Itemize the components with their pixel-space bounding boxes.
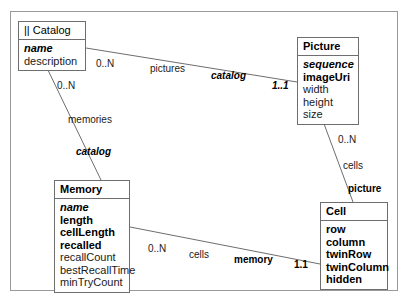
- attribute-picture-height: height: [303, 96, 353, 109]
- label-catalog-picture-source-role: pictures: [150, 63, 185, 74]
- attribute-catalog-description: description: [24, 55, 80, 68]
- attribute-memory-bestRecallTime: bestRecallTime: [60, 264, 124, 277]
- attribute-picture-width: width: [303, 83, 353, 96]
- label-memory-cell-source-cardinality: 0..N: [148, 243, 166, 254]
- diagram-canvas: || Catalog name description Picture sequ…: [0, 0, 408, 304]
- attribute-cell-twinColumn: twinColumn: [326, 261, 382, 274]
- label-catalog-memory-target-role: catalog: [76, 146, 111, 157]
- entity-picture[interactable]: Picture sequence imageUri width height s…: [297, 37, 359, 125]
- entity-cell-title: Cell: [321, 203, 387, 221]
- attribute-catalog-name: name: [24, 42, 80, 55]
- label-catalog-picture-target-cardinality: 1..1: [272, 80, 289, 91]
- label-catalog-picture-target-role: catalog: [211, 70, 246, 81]
- attribute-cell-row: row: [326, 223, 382, 236]
- entity-memory-title: Memory: [55, 181, 129, 199]
- label-picture-cell-source-cardinality: 0..N: [338, 134, 356, 145]
- attribute-picture-size: size: [303, 108, 353, 121]
- entity-cell[interactable]: Cell row column twinRow twinColumn hidde…: [320, 202, 388, 290]
- attribute-memory-name: name: [60, 201, 124, 214]
- entity-picture-attributes: sequence imageUri width height size: [298, 56, 358, 124]
- label-picture-cell-source-role: cells: [343, 160, 363, 171]
- label-catalog-memory-source-role: memories: [68, 114, 112, 125]
- attribute-cell-hidden: hidden: [326, 273, 382, 286]
- attribute-memory-cellLength: cellLength: [60, 226, 124, 239]
- label-memory-cell-target-cardinality: 1.1: [294, 259, 308, 270]
- label-catalog-picture-source-cardinality: 0..N: [96, 58, 114, 69]
- entity-picture-title: Picture: [298, 38, 358, 56]
- entity-catalog-title: || Catalog: [19, 22, 85, 40]
- label-catalog-memory-source-cardinality: 0..N: [57, 80, 75, 91]
- attribute-picture-imageUri: imageUri: [303, 71, 353, 84]
- attribute-memory-recallCount: recallCount: [60, 251, 124, 264]
- entity-cell-attributes: row column twinRow twinColumn hidden: [321, 221, 387, 289]
- entity-memory-attributes: name length cellLength recalled recallCo…: [55, 199, 129, 292]
- attribute-cell-column: column: [326, 236, 382, 249]
- label-memory-cell-source-role: cells: [189, 249, 209, 260]
- attribute-memory-recalled: recalled: [60, 239, 124, 252]
- attribute-memory-length: length: [60, 214, 124, 227]
- attribute-memory-minTryCount: minTryCount: [60, 276, 124, 289]
- entity-catalog-attributes: name description: [19, 40, 85, 70]
- entity-catalog[interactable]: || Catalog name description: [18, 21, 86, 71]
- label-memory-cell-target-role: memory: [234, 254, 273, 265]
- entity-memory[interactable]: Memory name length cellLength recalled r…: [54, 180, 130, 293]
- edge-catalog-picture: [86, 48, 297, 82]
- label-picture-cell-target-role: picture: [348, 183, 381, 194]
- attribute-cell-twinRow: twinRow: [326, 248, 382, 261]
- attribute-picture-sequence: sequence: [303, 58, 353, 71]
